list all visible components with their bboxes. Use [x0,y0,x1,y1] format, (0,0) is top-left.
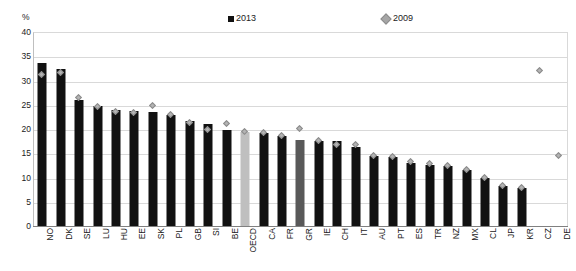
y-tick-label: 25 [3,101,31,110]
bar-group [513,32,531,226]
x-tick-label: KR [526,228,535,240]
bar-group [144,32,162,226]
bar-group [365,32,383,226]
bar-2013[interactable] [499,186,508,226]
x-axis-line [33,226,568,227]
x-tick-label: LU [102,228,111,239]
y-tick-label: 10 [3,174,31,183]
bar-2013[interactable] [75,100,84,226]
bar-group [70,32,88,226]
x-tick-label: IE [323,228,332,236]
x-tick-label: CZ [544,228,553,239]
x-tick-label: PL [175,228,184,238]
bar-group [291,32,309,226]
x-tick-label: HU [120,228,129,240]
diamond-marker-icon [380,13,391,24]
bar-2013[interactable] [185,121,194,226]
bar-group [217,32,235,226]
marker-2009[interactable] [149,102,156,109]
bar-group [457,32,475,226]
legend-item-2009: 2009 [382,14,413,23]
bar-group [199,32,217,226]
bar-2013[interactable] [112,110,121,226]
x-tick-label: TR [434,228,443,239]
bar-2013[interactable] [333,141,342,226]
marker-2009[interactable] [555,152,562,159]
square-marker-icon [228,16,234,22]
bar-group [531,32,549,226]
x-tick-label: FR [286,228,295,239]
bar-2013[interactable] [388,157,397,226]
bar-2013[interactable] [425,165,434,226]
bar-2013[interactable] [480,178,489,226]
y-tick-label: 30 [3,77,31,86]
marker-2009[interactable] [296,124,303,131]
bar-2013[interactable] [93,106,102,226]
bar-group [254,32,272,226]
y-tick-label: 5 [3,198,31,207]
bar-2013[interactable] [56,69,65,226]
chart-container: 2013 2009 % 0510152025303540 NODKSELUHUE… [0,0,576,271]
bar-group [476,32,494,226]
bar-group [33,32,51,226]
x-tick-label: IT [360,228,369,236]
bar-2013[interactable] [259,133,268,226]
bar-group [125,32,143,226]
x-tick-label: JP [507,228,516,238]
bar-2013[interactable] [517,188,526,226]
bar-2013[interactable] [314,141,323,226]
x-tick-label: MX [471,228,480,241]
y-axis-ticks: 0510152025303540 [0,0,31,271]
bar-2013[interactable] [407,163,416,226]
bar-2013[interactable] [444,166,453,226]
bar-2013[interactable] [351,147,360,226]
bar-group [494,32,512,226]
y-tick-label: 40 [3,28,31,37]
x-tick-label: SK [157,228,166,239]
bar-group [439,32,457,226]
bar-group [328,32,346,226]
bar-2013[interactable] [241,132,250,226]
bar-group [273,32,291,226]
bar-group [88,32,106,226]
bar-2013[interactable] [148,112,157,226]
bar-2013[interactable] [462,170,471,226]
bar-group [236,32,254,226]
x-tick-label: CH [341,228,350,240]
legend-label-2009: 2009 [393,14,413,23]
x-tick-label: NZ [452,228,461,239]
bar-group [310,32,328,226]
bar-2013[interactable] [167,115,176,226]
bar-group [347,32,365,226]
bar-2013[interactable] [296,140,305,226]
x-tick-label: OECD [249,228,258,253]
chart-legend: 2013 2009 [0,12,576,28]
x-tick-label: GR [305,228,314,241]
y-tick-label: 0 [3,222,31,231]
bar-2013[interactable] [204,124,213,226]
x-tick-label: SI [212,228,221,236]
bar-group [181,32,199,226]
bar-2013[interactable] [278,136,287,226]
bar-group [550,32,568,226]
x-tick-label: GB [194,228,203,240]
x-tick-label: EE [138,228,147,239]
bars-layer [33,32,568,226]
bar-2013[interactable] [130,111,139,226]
y-tick-label: 35 [3,52,31,61]
marker-2009[interactable] [536,67,543,74]
bar-2013[interactable] [222,130,231,226]
y-tick-label: 20 [3,125,31,134]
x-tick-label: AU [378,228,387,240]
x-tick-label: SE [83,228,92,239]
bar-2013[interactable] [38,63,47,226]
x-tick-label: CA [268,228,277,240]
bar-group [162,32,180,226]
bar-group [107,32,125,226]
legend-label-2013: 2013 [236,14,256,23]
bar-group [420,32,438,226]
bar-2013[interactable] [370,156,379,226]
bar-group [51,32,69,226]
bar-group [402,32,420,226]
marker-2009[interactable] [223,120,230,127]
